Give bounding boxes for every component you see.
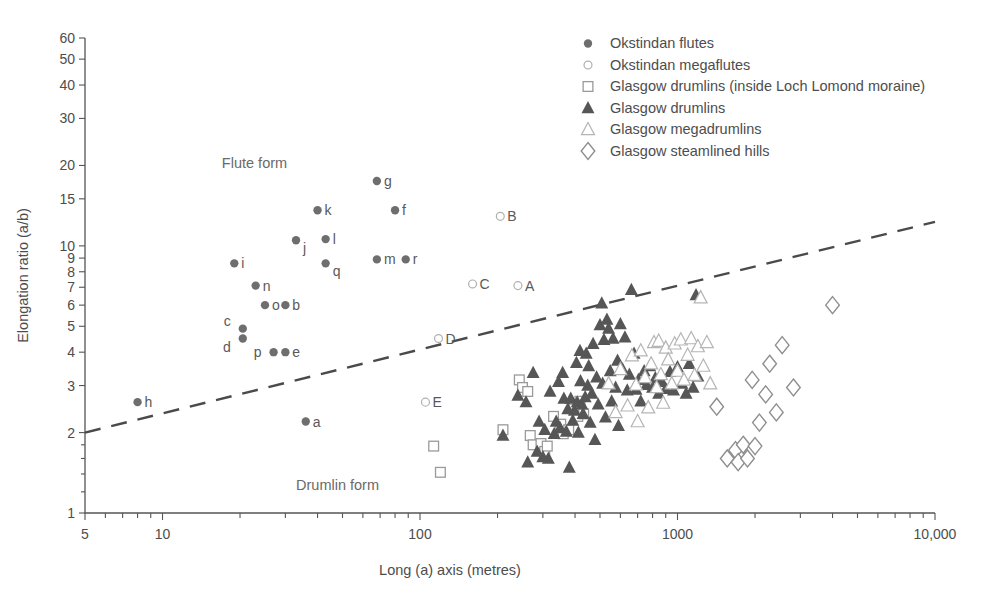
legend-marker-open-circle bbox=[584, 61, 592, 69]
data-point-filled-circle bbox=[321, 259, 329, 267]
data-point-open-square bbox=[429, 441, 439, 451]
data-point-filled-triangle bbox=[588, 433, 601, 445]
data-point-filled-triangle bbox=[605, 394, 618, 406]
data-point-filled-circle bbox=[373, 177, 381, 185]
point-label-c: c bbox=[224, 313, 231, 329]
y-tick-label: 5 bbox=[67, 318, 75, 334]
point-label-m: m bbox=[384, 251, 396, 267]
data-point-filled-triangle bbox=[612, 419, 625, 431]
point-label-f: f bbox=[402, 202, 406, 218]
y-tick-label: 4 bbox=[67, 344, 75, 360]
data-point-filled-circle bbox=[261, 301, 269, 309]
flute-drumlin-boundary-line bbox=[85, 222, 935, 433]
point-label-q: q bbox=[333, 263, 341, 279]
data-point-open-square bbox=[542, 441, 552, 451]
data-point-open-diamond bbox=[710, 398, 724, 415]
point-label-a: a bbox=[313, 414, 321, 430]
legend-label-2[interactable]: Glasgow drumlins (inside Loch Lomond mor… bbox=[610, 78, 925, 94]
x-axis-title: Long (a) axis (metres) bbox=[379, 562, 521, 578]
data-point-open-triangle bbox=[621, 399, 634, 411]
point-label-k: k bbox=[325, 202, 333, 218]
legend-marker-filled-triangle bbox=[582, 101, 595, 113]
data-point-open-diamond bbox=[759, 386, 773, 403]
point-label-g: g bbox=[384, 173, 392, 189]
scatter-plot-figure: 12345678910152030405060Elongation ratio … bbox=[0, 0, 986, 599]
data-point-open-square bbox=[523, 387, 533, 397]
annotation-drumlin-form: Drumlin form bbox=[296, 477, 379, 493]
y-tick-label: 2 bbox=[67, 425, 75, 441]
legend-label-5[interactable]: Glasgow steamlined hills bbox=[610, 143, 770, 159]
data-point-filled-circle bbox=[230, 259, 238, 267]
point-label-A: A bbox=[525, 278, 535, 294]
data-point-open-triangle bbox=[685, 331, 698, 343]
data-point-open-diamond bbox=[753, 414, 767, 431]
data-point-filled-circle bbox=[281, 301, 289, 309]
data-point-filled-triangle bbox=[595, 296, 608, 308]
data-point-filled-triangle bbox=[600, 313, 613, 325]
x-tick-label: 100 bbox=[408, 526, 432, 542]
data-point-open-triangle bbox=[631, 415, 644, 427]
data-point-filled-triangle bbox=[587, 337, 600, 349]
data-point-filled-triangle bbox=[634, 394, 647, 406]
legend-label-3[interactable]: Glasgow drumlins bbox=[610, 100, 725, 116]
data-point-open-triangle bbox=[609, 405, 622, 417]
data-point-open-circle bbox=[469, 280, 477, 288]
point-label-l: l bbox=[333, 231, 336, 247]
data-point-open-triangle bbox=[662, 353, 675, 365]
data-point-open-square bbox=[436, 467, 446, 477]
y-tick-label: 8 bbox=[67, 264, 75, 280]
legend-marker-open-diamond bbox=[581, 143, 595, 160]
y-tick-label: 6 bbox=[67, 297, 75, 313]
y-tick-label: 30 bbox=[59, 110, 75, 126]
data-point-open-triangle bbox=[700, 335, 713, 347]
x-tick-label: 10 bbox=[155, 526, 171, 542]
data-point-filled-triangle bbox=[556, 366, 569, 378]
data-point-filled-triangle bbox=[592, 397, 605, 409]
x-tick-label: 1000 bbox=[662, 526, 693, 542]
data-point-open-diamond bbox=[826, 297, 840, 314]
point-label-e: e bbox=[292, 344, 300, 360]
data-point-filled-circle bbox=[302, 417, 310, 425]
point-label-h: h bbox=[145, 394, 153, 410]
point-label-o: o bbox=[272, 297, 280, 313]
point-label-p: p bbox=[254, 344, 262, 360]
point-label-E: E bbox=[432, 394, 441, 410]
x-tick-label: 5 bbox=[81, 526, 89, 542]
point-label-B: B bbox=[507, 208, 516, 224]
y-axis-title: Elongation ratio (a/b) bbox=[15, 208, 31, 343]
point-label-d: d bbox=[223, 339, 231, 355]
data-point-open-circle bbox=[422, 398, 430, 406]
data-point-open-circle bbox=[514, 282, 522, 290]
y-tick-label: 3 bbox=[67, 378, 75, 394]
data-point-filled-triangle bbox=[563, 460, 576, 472]
data-point-open-diamond bbox=[775, 337, 789, 354]
point-label-D: D bbox=[446, 331, 456, 347]
y-tick-label: 15 bbox=[59, 191, 75, 207]
data-point-filled-circle bbox=[251, 281, 259, 289]
data-point-open-triangle bbox=[634, 344, 647, 356]
legend-marker-open-square bbox=[583, 82, 593, 92]
data-point-filled-circle bbox=[402, 255, 410, 263]
data-point-open-diamond bbox=[748, 438, 762, 455]
point-label-j: j bbox=[302, 240, 306, 256]
data-point-filled-triangle bbox=[527, 366, 540, 378]
plot-canvas: 12345678910152030405060Elongation ratio … bbox=[0, 0, 986, 599]
point-label-r: r bbox=[413, 251, 418, 267]
data-point-filled-triangle bbox=[625, 283, 638, 295]
legend-label-0[interactable]: Okstindan flutes bbox=[610, 35, 714, 51]
legend-marker-filled-circle bbox=[584, 39, 592, 47]
data-point-filled-circle bbox=[239, 324, 247, 332]
data-point-filled-triangle bbox=[521, 455, 534, 467]
axis-frame bbox=[85, 38, 935, 513]
data-point-open-diamond bbox=[763, 355, 777, 372]
annotation-flute-form: Flute form bbox=[222, 155, 287, 171]
data-point-open-triangle bbox=[704, 377, 717, 389]
legend-label-1[interactable]: Okstindan megaflutes bbox=[610, 57, 750, 73]
data-point-filled-circle bbox=[281, 348, 289, 356]
data-point-filled-circle bbox=[321, 235, 329, 243]
y-tick-label: 50 bbox=[59, 51, 75, 67]
data-point-filled-circle bbox=[269, 348, 277, 356]
data-point-filled-triangle bbox=[614, 317, 627, 329]
legend-label-4[interactable]: Glasgow megadrumlins bbox=[610, 121, 762, 137]
data-point-open-square bbox=[525, 431, 535, 441]
